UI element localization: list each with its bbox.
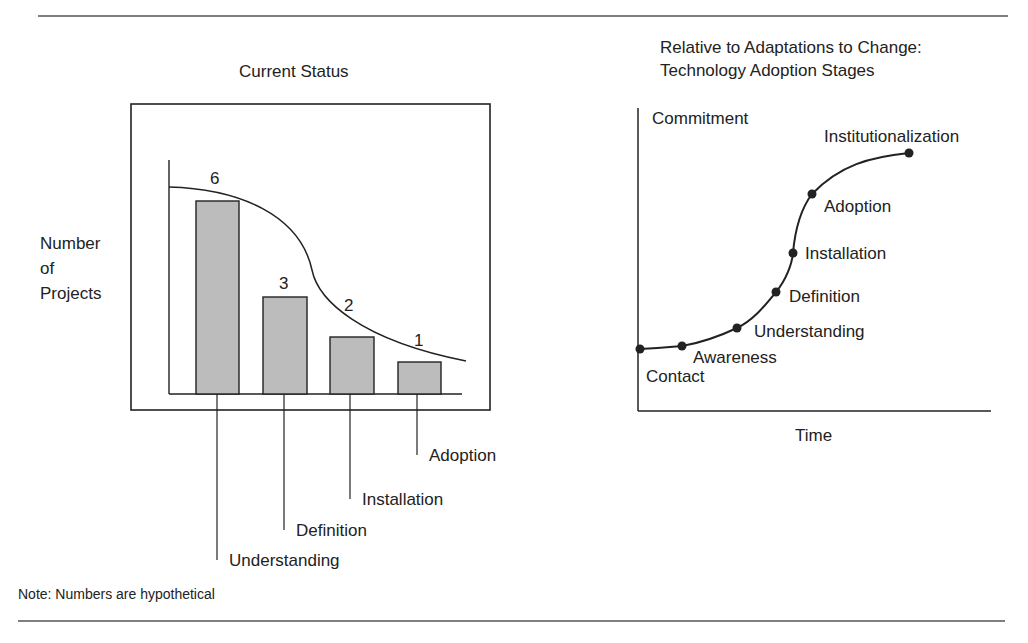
bar-adoption: [398, 362, 441, 394]
bar-chart-title: Current Status: [239, 62, 349, 82]
stage-label-definition: Definition: [789, 287, 860, 307]
stage-label-contact: Contact: [646, 367, 705, 387]
point-institutionalization: [905, 149, 914, 158]
note: Note: Numbers are hypothetical: [18, 586, 215, 602]
value-label-definition: 3: [279, 274, 288, 294]
commitment-label: Commitment: [652, 109, 748, 129]
y-axis-label-line: Projects: [40, 281, 101, 306]
y-axis-label: Number of Projects: [40, 231, 101, 306]
value-label-adoption: 1: [414, 331, 423, 351]
bar-installation: [330, 337, 374, 394]
stage-label-awareness: Awareness: [693, 348, 777, 368]
bar-definition: [263, 297, 307, 394]
s-curve-title-line1: Relative to Adaptations to Change:: [660, 38, 922, 58]
point-adoption: [808, 190, 817, 199]
point-contact: [636, 345, 645, 354]
category-label-adoption: Adoption: [429, 446, 496, 466]
category-label-understanding: Understanding: [229, 551, 340, 571]
s-curve-title-line2: Technology Adoption Stages: [660, 61, 875, 81]
time-label: Time: [795, 426, 832, 446]
y-axis-label-line: Number: [40, 231, 101, 256]
point-installation: [789, 249, 798, 258]
point-understanding: [733, 324, 742, 333]
stage-label-understanding: Understanding: [754, 322, 865, 342]
stage-label-adoption: Adoption: [824, 197, 891, 217]
point-definition: [772, 288, 781, 297]
stage-label-installation: Installation: [805, 244, 886, 264]
category-label-installation: Installation: [362, 490, 443, 510]
value-label-installation: 2: [344, 296, 353, 316]
stage-label-institutionalization: Institutionalization: [824, 127, 959, 147]
value-label-understanding: 6: [210, 169, 219, 189]
y-axis-label-line: of: [40, 256, 101, 281]
category-label-definition: Definition: [296, 521, 367, 541]
diagram-canvas: [0, 0, 1028, 643]
point-awareness: [678, 342, 687, 351]
bar-understanding: [196, 201, 239, 394]
